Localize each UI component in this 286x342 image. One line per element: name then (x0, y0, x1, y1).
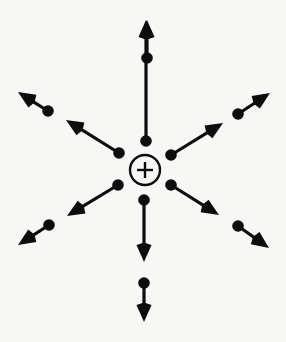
vector-origin-dot (141, 52, 153, 64)
vector-origin-dot (113, 147, 125, 159)
vector-origin-dot (232, 108, 244, 120)
vector-origin-dot (43, 219, 55, 231)
point-charge (130, 155, 160, 185)
vector-origin-dot (138, 277, 150, 289)
vector-origin-dot (42, 105, 54, 117)
electric-field-diagram (0, 0, 286, 342)
vector-origin-dot (138, 194, 150, 206)
vector-origin-dot (165, 149, 177, 161)
vector-origin-dot (112, 179, 124, 191)
electric-field-figure: Electric field of a positive point charg… (0, 0, 286, 342)
vector-origin-dot (165, 179, 177, 191)
vector-origin-dot (232, 220, 244, 232)
vector-origin-dot (140, 135, 152, 147)
